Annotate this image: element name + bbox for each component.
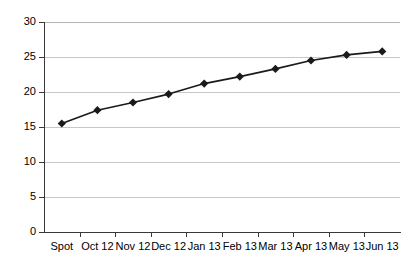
- data-point-marker: [165, 90, 173, 98]
- x-axis-category-label: Apr 13: [293, 240, 329, 252]
- x-axis-tick: [364, 232, 365, 237]
- data-point-marker: [93, 106, 101, 114]
- x-axis-category-label: Mar 13: [258, 240, 294, 252]
- y-axis-tick: [39, 22, 44, 23]
- y-axis-tick: [39, 57, 44, 58]
- data-point-marker: [378, 47, 386, 55]
- data-point-marker: [200, 80, 208, 88]
- data-point-marker: [307, 56, 315, 64]
- y-axis-tick: [39, 127, 44, 128]
- x-axis-category-label: Jun 13: [364, 240, 400, 252]
- x-axis-tick: [115, 232, 116, 237]
- line-chart: 051015202530SpotOct 12Nov 12Dec 12Jan 13…: [0, 0, 418, 271]
- data-point-marker: [271, 65, 279, 73]
- series-line: [62, 51, 382, 123]
- x-axis-category-label: Oct 12: [80, 240, 116, 252]
- y-axis-tick-label: 30: [24, 16, 36, 27]
- y-axis-tick-label: 10: [24, 156, 36, 167]
- x-axis-tick: [151, 232, 152, 237]
- x-axis-tick: [329, 232, 330, 237]
- marker-group: [58, 47, 387, 127]
- data-point-marker: [58, 119, 66, 127]
- x-axis-category-label: Spot: [44, 240, 80, 252]
- x-axis-category-label: Feb 13: [222, 240, 258, 252]
- x-axis-tick: [222, 232, 223, 237]
- x-axis-category-label: May 13: [329, 240, 365, 252]
- x-axis-category-label: Jan 13: [186, 240, 222, 252]
- y-axis-tick-label: 5: [30, 191, 36, 202]
- x-axis-tick: [258, 232, 259, 237]
- series-line-and-markers: [0, 0, 418, 271]
- y-axis-tick: [39, 162, 44, 163]
- y-axis-tick-label: 15: [24, 121, 36, 132]
- x-axis-category-label: Nov 12: [115, 240, 151, 252]
- data-point-marker: [343, 51, 351, 59]
- y-axis-tick: [39, 92, 44, 93]
- x-axis-tick: [80, 232, 81, 237]
- x-axis-tick: [293, 232, 294, 237]
- y-axis-tick: [39, 197, 44, 198]
- x-axis-tick: [186, 232, 187, 237]
- y-axis-tick-label: 25: [24, 51, 36, 62]
- x-axis-category-label: Dec 12: [151, 240, 187, 252]
- data-point-marker: [236, 73, 244, 81]
- y-axis-tick-label: 0: [30, 226, 36, 237]
- y-axis-tick: [39, 232, 44, 233]
- y-axis-tick-label: 20: [24, 86, 36, 97]
- data-point-marker: [129, 98, 137, 106]
